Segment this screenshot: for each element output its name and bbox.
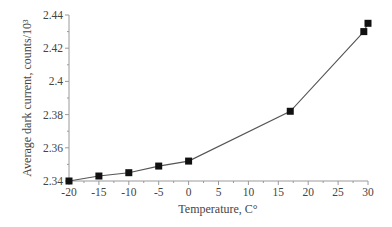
y-tick-label: 2.36	[43, 142, 63, 154]
data-markers	[66, 20, 372, 185]
data-point-marker	[66, 178, 73, 185]
data-point-marker	[287, 108, 294, 115]
x-tick-label: -15	[91, 186, 107, 198]
data-point-marker	[125, 169, 132, 176]
x-tick-label: 30	[362, 186, 374, 198]
x-tick-label: 5	[216, 186, 222, 198]
y-axis-title: Average dark current, counts/10³	[20, 19, 34, 177]
x-tick-label: 25	[332, 186, 344, 198]
x-tick-label: -10	[121, 186, 137, 198]
data-point-marker	[95, 173, 102, 180]
data-point-marker	[365, 20, 372, 27]
x-axis-title: Temperature, C°	[178, 202, 257, 216]
axes	[69, 15, 368, 181]
data-line	[69, 23, 368, 181]
y-tick-label: 2.42	[43, 42, 63, 54]
x-tick-label: -5	[154, 186, 164, 198]
x-tick-label: 20	[302, 186, 314, 198]
x-axis-ticks: -20-15-10-5051015202530	[61, 181, 374, 198]
line-chart: 2.342.362.382.42.422.44 -20-15-10-505101…	[0, 0, 392, 227]
x-tick-label: 15	[273, 186, 285, 198]
y-tick-label: 2.34	[43, 175, 63, 187]
data-point-marker	[185, 158, 192, 165]
x-tick-label: -20	[61, 186, 77, 198]
y-tick-label: 2.4	[49, 75, 64, 87]
y-axis-ticks: 2.342.362.382.42.422.44	[43, 9, 69, 187]
x-tick-label: 10	[243, 186, 255, 198]
data-point-marker	[155, 163, 162, 170]
y-tick-label: 2.44	[43, 9, 63, 21]
x-tick-label: 0	[186, 186, 192, 198]
data-point-marker	[360, 28, 367, 35]
y-tick-label: 2.38	[43, 109, 63, 121]
